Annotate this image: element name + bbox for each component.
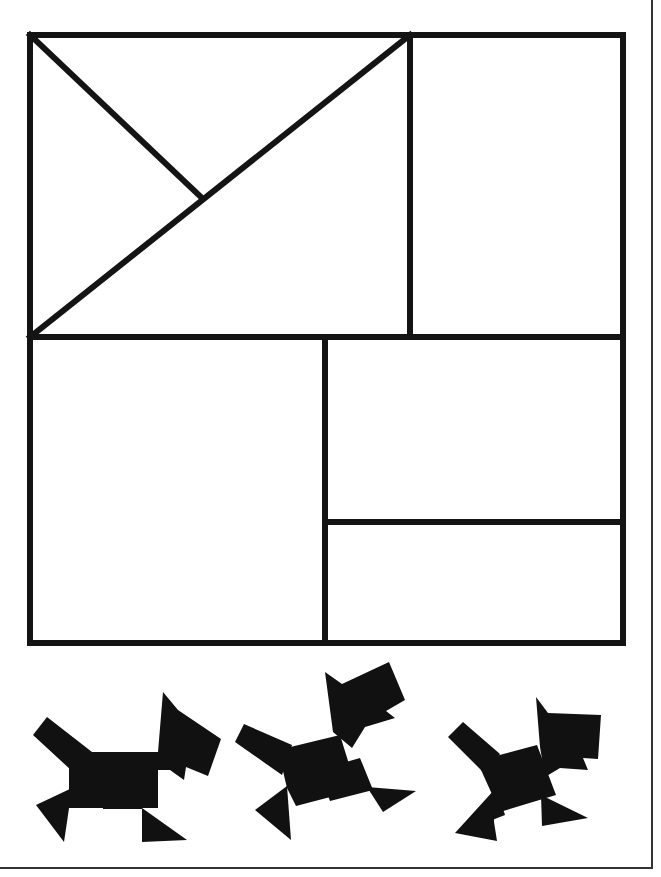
dog-3-silhouette: [448, 697, 601, 841]
worksheet-canvas: [0, 0, 661, 877]
dog-silhouettes: [33, 662, 601, 842]
tangram-piece: [36, 788, 72, 842]
dog-2-silhouette: [235, 662, 416, 840]
tangram-piece: [455, 789, 497, 841]
tangram-outline: [30, 35, 623, 643]
page-border-bottom: [0, 867, 653, 869]
tangram-piece: [142, 808, 187, 842]
short-diagonal: [30, 35, 201, 197]
tangram-piece: [255, 786, 291, 840]
page-border-right: [651, 0, 653, 869]
tangram-piece: [150, 692, 221, 780]
dog-1-silhouette: [33, 692, 221, 842]
tangram-piece: [541, 795, 588, 826]
tangram-piece: [367, 787, 416, 812]
tangram-piece: [536, 697, 601, 777]
tangram-piece: [103, 788, 142, 809]
tangram-piece: [325, 662, 405, 748]
divider-lines: [30, 35, 623, 643]
long-diagonal: [30, 35, 410, 337]
